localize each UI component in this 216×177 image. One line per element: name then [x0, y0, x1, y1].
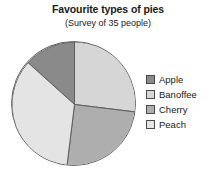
legend-item-cherry: Cherry	[146, 102, 216, 117]
chart-title-block: Favourite types of pies (Survey of 35 pe…	[0, 3, 216, 29]
legend-item-apple: Apple	[146, 72, 216, 87]
legend-item-peach: Peach	[146, 117, 216, 132]
pie-circle	[11, 41, 136, 166]
legend-label: Cherry	[159, 104, 188, 115]
pie-slice-cherry	[67, 105, 136, 167]
chart-legend: AppleBanoffeeCherryPeach	[146, 72, 216, 132]
chart-subtitle: (Survey of 35 people)	[0, 17, 216, 29]
legend-item-banoffee: Banoffee	[146, 87, 216, 102]
chart-title: Favourite types of pies	[0, 3, 216, 16]
legend-label: Apple	[159, 74, 183, 85]
pie-slice-banoffee	[75, 42, 137, 112]
legend-swatch-icon	[146, 105, 155, 114]
pie-plot-area	[11, 41, 136, 166]
legend-label: Peach	[159, 119, 186, 130]
legend-label: Banoffee	[159, 89, 197, 100]
legend-swatch-icon	[146, 90, 155, 99]
pie-slices-svg	[12, 42, 136, 166]
legend-swatch-icon	[146, 120, 155, 129]
pie-chart-figure: Favourite types of pies (Survey of 35 pe…	[0, 0, 216, 177]
legend-swatch-icon	[146, 75, 155, 84]
